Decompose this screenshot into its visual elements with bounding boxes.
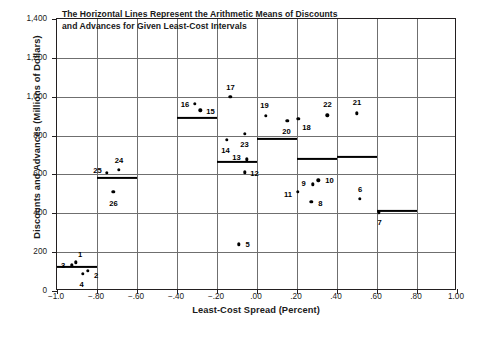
chart-note-line-2: and Advances for Given Least-Cost Interv… — [62, 20, 362, 32]
gridline-vertical — [297, 19, 298, 289]
data-point — [199, 109, 202, 112]
data-point — [264, 114, 267, 117]
data-point-label: 18 — [302, 123, 310, 132]
x-axis-tick-labels: −1.0−.80−.60−.40−.20.00.20.40.60.801.00 — [56, 292, 456, 306]
data-point-label: 14 — [221, 145, 229, 154]
x-axis-tick-label: 1.00 — [448, 292, 464, 301]
y-axis-tick — [52, 252, 57, 253]
data-point — [358, 197, 361, 200]
data-point-label: 5 — [245, 240, 249, 249]
data-point-label: 19 — [260, 100, 268, 109]
data-point-label: 20 — [282, 126, 290, 135]
data-point-label: 3 — [61, 261, 65, 270]
data-point-label: 6 — [358, 184, 362, 193]
mean-line — [377, 210, 417, 212]
gridline-horizontal — [57, 213, 455, 214]
gridline-horizontal — [57, 58, 455, 59]
gridline-vertical — [377, 19, 378, 289]
x-axis-tick-label: .60 — [370, 292, 381, 301]
gridline-vertical — [177, 19, 178, 289]
y-axis-tick-label: 1,000 — [27, 91, 48, 100]
x-axis-tick-label: −.40 — [168, 292, 184, 301]
data-point — [297, 117, 300, 120]
data-point-label: 15 — [206, 107, 214, 116]
gridline-horizontal — [57, 136, 455, 137]
data-point-label: 9 — [301, 179, 305, 188]
mean-line — [177, 117, 217, 119]
data-point — [117, 168, 120, 171]
x-axis-tick-label: .20 — [290, 292, 301, 301]
y-axis-tick-label: 400 — [33, 208, 47, 217]
data-point-label: 1 — [78, 250, 82, 259]
data-point-label: 8 — [318, 198, 322, 207]
data-point — [112, 190, 115, 193]
x-axis-tick-label: .80 — [410, 292, 421, 301]
data-point — [311, 182, 314, 185]
data-point — [81, 272, 84, 275]
y-axis-tick — [52, 19, 57, 20]
data-point — [193, 102, 196, 105]
x-axis-tick-label: .00 — [250, 292, 261, 301]
data-point-label: 4 — [79, 279, 83, 288]
data-point — [310, 200, 313, 203]
data-point — [317, 179, 320, 182]
gridline-vertical — [257, 19, 258, 289]
gridline-horizontal — [57, 97, 455, 98]
gridline-vertical — [97, 19, 98, 289]
data-point — [286, 119, 289, 122]
gridline-vertical — [337, 19, 338, 289]
chart-figure: Discounts and Advances (Millions of Doll… — [0, 0, 486, 341]
data-point-label: 21 — [353, 98, 361, 107]
y-axis-tick — [52, 174, 57, 175]
y-axis-tick-label: 0 — [42, 286, 47, 295]
data-point — [74, 261, 77, 264]
y-axis-tick-label: 600 — [33, 169, 47, 178]
x-axis-tick-label: −.20 — [208, 292, 224, 301]
x-axis-tick-label: −.60 — [128, 292, 144, 301]
data-point-label: 25 — [93, 166, 101, 175]
data-point-label: 11 — [284, 189, 292, 198]
gridline-vertical — [417, 19, 418, 289]
x-axis-tick-label: −.80 — [88, 292, 104, 301]
gridline-horizontal — [57, 252, 455, 253]
x-axis-tick-label: .40 — [330, 292, 341, 301]
data-point-label: 10 — [325, 176, 333, 185]
data-point-label: 12 — [250, 169, 258, 178]
chart-note: The Horizontal Lines Represent the Arith… — [62, 8, 362, 32]
y-axis-tick-label: 1,400 — [27, 14, 48, 23]
data-point — [229, 95, 232, 98]
chart-note-line-1: The Horizontal Lines Represent the Arith… — [62, 8, 362, 20]
y-axis-tick-label: 1,200 — [27, 52, 48, 61]
mean-line — [337, 156, 377, 158]
data-point — [326, 113, 329, 116]
y-axis-tick-labels: 02004006008001,0001,2001,400 — [0, 18, 52, 290]
data-point-label: 13 — [232, 153, 240, 162]
y-axis-tick-label: 200 — [33, 247, 47, 256]
data-point-label: 17 — [226, 82, 234, 91]
plot-area: 1234567891011121314151617181920212223242… — [56, 18, 456, 290]
gridline-vertical — [217, 19, 218, 289]
data-point — [86, 269, 89, 272]
y-axis-tick — [52, 58, 57, 59]
mean-line — [297, 158, 337, 160]
data-point — [355, 112, 358, 115]
data-point-label: 2 — [94, 270, 98, 279]
mean-line — [97, 177, 137, 179]
data-point-label: 16 — [181, 99, 189, 108]
y-axis-tick — [52, 97, 57, 98]
y-axis-tick — [52, 136, 57, 137]
data-point — [296, 190, 299, 193]
x-axis-tick-label: −1.0 — [48, 292, 64, 301]
y-axis-tick — [52, 213, 57, 214]
y-axis-tick-label: 800 — [33, 130, 47, 139]
data-point — [225, 138, 228, 141]
data-point-label: 26 — [109, 198, 117, 207]
gridline-vertical — [137, 19, 138, 289]
mean-line — [257, 138, 297, 140]
data-point-label: 24 — [115, 155, 123, 164]
x-axis-title: Least-Cost Spread (Percent) — [56, 305, 456, 315]
data-point-label: 22 — [323, 100, 331, 109]
data-point-label: 7 — [377, 218, 381, 227]
data-point — [237, 243, 240, 246]
data-point-label: 23 — [240, 139, 248, 148]
